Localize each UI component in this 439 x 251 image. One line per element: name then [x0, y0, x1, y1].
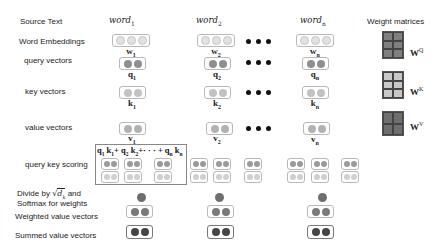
- wv-label: WV: [410, 121, 423, 132]
- query-key-scoring-label: query key scoring: [25, 160, 88, 169]
- q-subscript: 2: [218, 75, 221, 81]
- word-subscript: n: [322, 20, 326, 27]
- word-embeddings-label: Word Embeddings: [19, 37, 85, 46]
- ellipsis-icon: [246, 126, 271, 131]
- word-text: word: [196, 15, 218, 25]
- wq-matrix: [382, 31, 404, 59]
- score-key-pair: [311, 171, 329, 183]
- k-subscript: n: [316, 104, 319, 110]
- score-query-pair: [101, 158, 119, 170]
- softmax-weight-n: [318, 193, 327, 202]
- weighted-value-vectors-label: Weighted value vectors: [15, 212, 98, 221]
- score-key-pair: [154, 171, 172, 183]
- f-s5: n: [170, 151, 173, 157]
- key-dot: [134, 89, 142, 97]
- score-query-pair: [213, 158, 231, 170]
- key-dot: [124, 89, 132, 97]
- k2-label: k2: [202, 98, 232, 110]
- score-key-pair: [287, 171, 305, 183]
- matrix-name: W: [410, 87, 419, 97]
- divide-pre-text: Divide by: [17, 189, 50, 198]
- wq-label: WQ: [410, 47, 423, 58]
- weighted-value-n: [307, 205, 334, 218]
- score-query-pair: [154, 158, 172, 170]
- embedding-dot: [212, 36, 221, 45]
- value-dot: [134, 125, 142, 133]
- key-dot: [209, 89, 217, 97]
- matrix-name: W: [410, 122, 419, 132]
- vn-label: vn: [300, 134, 330, 146]
- score-key-pair: [341, 171, 359, 183]
- key-dot: [219, 89, 227, 97]
- divide-post-text: and: [68, 189, 81, 198]
- f-s6: n: [180, 151, 183, 157]
- q1-label: q1: [117, 69, 147, 81]
- k1-label: k1: [117, 98, 147, 110]
- score-query-pair: [190, 158, 208, 170]
- k-subscript: 1: [133, 104, 136, 110]
- query-dot: [124, 60, 132, 68]
- softmax-weight-2: [215, 193, 224, 202]
- weight-matrices-title: Weight matrices: [367, 17, 424, 26]
- embedding-dot: [138, 36, 147, 45]
- key-vectors-label: key vectors: [25, 87, 65, 96]
- f-s1: 1: [102, 151, 105, 157]
- v-subscript: 2: [218, 139, 221, 145]
- divide-label: Divide by √dk and: [17, 189, 81, 200]
- scoring-formula: q1 k1+ q2 k2+· · · + qn kn: [97, 145, 183, 157]
- f-plus1: +: [114, 145, 119, 155]
- value-dot: [318, 125, 326, 133]
- query-dot: [219, 60, 227, 68]
- summed-value-n: [307, 225, 334, 239]
- softmax-label: Softmax for weights: [17, 199, 87, 208]
- embedding-dot: [311, 36, 320, 45]
- score-query-pair: [244, 158, 262, 170]
- wk-label: WK: [410, 86, 423, 97]
- score-query-pair: [287, 158, 305, 170]
- source-text-label: Source Text: [20, 17, 62, 26]
- embedding-dot: [300, 36, 309, 45]
- kn-label: kn: [300, 98, 330, 110]
- f-plus2: +· · · +: [138, 145, 163, 155]
- word-1-header: word1: [109, 15, 135, 27]
- matrix-sup: V: [419, 121, 423, 127]
- score-key-pair: [213, 171, 231, 183]
- ellipsis-icon: [246, 90, 271, 95]
- score-query-pair: [124, 158, 142, 170]
- value-dot: [221, 125, 229, 133]
- ellipsis-icon: [246, 39, 271, 44]
- summed-value-vectors-label: Summed value vectors: [15, 231, 96, 240]
- softmax-weight-1: [137, 193, 146, 202]
- matrix-sup: Q: [419, 47, 423, 53]
- query-vectors-label: query vectors: [24, 56, 72, 65]
- ellipsis-icon: [246, 60, 271, 65]
- word-subscript: 2: [218, 20, 222, 27]
- score-query-pair: [311, 158, 329, 170]
- summed-value-1: [126, 225, 153, 239]
- key-dot: [307, 89, 315, 97]
- value-dot: [124, 125, 132, 133]
- k-subscript: 2: [218, 104, 221, 110]
- embedding-dot: [223, 36, 232, 45]
- q-subscript: 1: [133, 75, 136, 81]
- matrix-name: W: [410, 48, 419, 58]
- value-dot: [308, 125, 316, 133]
- query-dot: [134, 60, 142, 68]
- v-subscript: n: [316, 140, 319, 146]
- score-query-pair: [341, 158, 359, 170]
- embedding-dot: [322, 36, 331, 45]
- matrix-sup: K: [419, 86, 423, 92]
- word-text: word: [109, 15, 131, 25]
- q2-label: q2: [202, 69, 232, 81]
- weighted-value-1: [126, 205, 153, 218]
- weighted-value-2: [207, 205, 234, 218]
- word-text: word: [300, 15, 322, 25]
- summed-value-2: [207, 225, 234, 239]
- query-dot: [307, 60, 315, 68]
- embedding-dot: [116, 36, 125, 45]
- score-key-pair: [101, 171, 119, 183]
- word-subscript: 1: [131, 20, 135, 27]
- q-subscript: n: [316, 75, 319, 81]
- score-key-pair: [124, 171, 142, 183]
- embedding-dot: [127, 36, 136, 45]
